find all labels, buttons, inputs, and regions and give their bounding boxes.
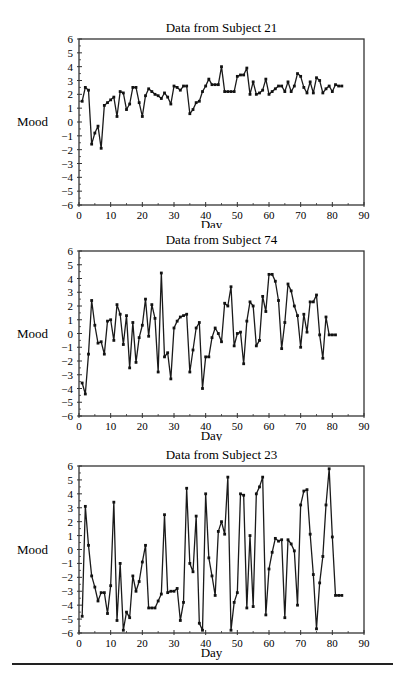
y-tick-label: 6 bbox=[68, 460, 74, 472]
data-point bbox=[201, 629, 204, 632]
data-point bbox=[192, 570, 195, 573]
chart-title: Data from Subject 23 bbox=[166, 447, 278, 462]
data-point bbox=[157, 600, 160, 603]
data-point bbox=[315, 76, 318, 79]
data-point bbox=[331, 536, 334, 539]
data-point bbox=[293, 85, 296, 88]
data-point bbox=[160, 272, 163, 275]
y-tick-label: 0 bbox=[68, 116, 74, 128]
data-point bbox=[299, 346, 302, 349]
data-point bbox=[321, 92, 324, 95]
data-point bbox=[258, 485, 261, 488]
data-point bbox=[188, 112, 191, 115]
data-point bbox=[109, 318, 112, 321]
data-point bbox=[150, 90, 153, 93]
data-line bbox=[82, 273, 335, 394]
y-tick-label: 5 bbox=[68, 47, 74, 59]
data-point bbox=[293, 305, 296, 308]
data-point bbox=[204, 492, 207, 495]
data-point bbox=[150, 607, 153, 610]
data-point bbox=[214, 327, 217, 330]
data-point bbox=[112, 96, 115, 99]
data-point bbox=[93, 324, 96, 327]
data-point bbox=[280, 85, 283, 88]
y-tick-label: 5 bbox=[68, 259, 74, 271]
data-point bbox=[144, 94, 147, 97]
data-point bbox=[223, 533, 226, 536]
data-point bbox=[277, 299, 280, 302]
data-markers bbox=[81, 467, 343, 631]
y-tick-label: 0 bbox=[68, 328, 74, 340]
data-point bbox=[258, 339, 261, 342]
data-point bbox=[255, 93, 258, 96]
data-point bbox=[302, 490, 305, 493]
data-point bbox=[233, 601, 236, 604]
data-point bbox=[318, 79, 321, 82]
data-point bbox=[325, 316, 328, 319]
data-point bbox=[185, 487, 188, 490]
data-point bbox=[340, 85, 343, 88]
data-point bbox=[185, 313, 188, 316]
data-point bbox=[147, 335, 150, 338]
data-point bbox=[157, 94, 160, 97]
data-point bbox=[84, 86, 87, 89]
data-point bbox=[135, 86, 138, 89]
data-point bbox=[150, 303, 153, 306]
data-point bbox=[236, 75, 239, 78]
data-point bbox=[87, 353, 90, 356]
data-point bbox=[182, 85, 185, 88]
data-point bbox=[242, 362, 245, 365]
data-point bbox=[81, 382, 84, 385]
data-point bbox=[293, 549, 296, 552]
data-point bbox=[337, 594, 340, 597]
data-point bbox=[166, 96, 169, 99]
data-point bbox=[144, 544, 147, 547]
data-point bbox=[109, 584, 112, 587]
data-point bbox=[328, 467, 331, 470]
y-axis-label: Mood bbox=[17, 542, 49, 557]
data-point bbox=[112, 501, 115, 504]
data-point bbox=[211, 336, 214, 339]
data-point bbox=[261, 89, 264, 92]
data-point bbox=[283, 321, 286, 324]
data-point bbox=[103, 104, 106, 107]
data-point bbox=[179, 89, 182, 92]
data-point bbox=[176, 320, 179, 323]
data-point bbox=[268, 568, 271, 571]
data-point bbox=[119, 562, 122, 565]
data-point bbox=[255, 492, 258, 495]
y-tick-label: −4 bbox=[61, 383, 73, 395]
data-point bbox=[274, 87, 277, 90]
data-point bbox=[122, 629, 125, 632]
y-tick-label: 6 bbox=[68, 245, 74, 257]
data-point bbox=[325, 87, 328, 90]
data-point bbox=[166, 351, 169, 354]
data-point bbox=[97, 342, 100, 345]
data-point bbox=[226, 90, 229, 93]
y-tick-label: −1 bbox=[61, 130, 73, 142]
data-point bbox=[87, 89, 90, 92]
data-point bbox=[131, 575, 134, 578]
data-point bbox=[135, 590, 138, 593]
data-point bbox=[306, 92, 309, 95]
data-point bbox=[283, 90, 286, 93]
data-point bbox=[119, 90, 122, 93]
y-tick-label: 2 bbox=[68, 88, 74, 100]
data-point bbox=[264, 78, 267, 81]
data-point bbox=[173, 590, 176, 593]
data-point bbox=[252, 305, 255, 308]
data-point bbox=[90, 575, 93, 578]
y-tick-label: −3 bbox=[61, 158, 73, 170]
data-point bbox=[163, 92, 166, 95]
data-point bbox=[173, 327, 176, 330]
data-point bbox=[274, 280, 277, 283]
data-point bbox=[198, 321, 201, 324]
data-point bbox=[103, 591, 106, 594]
x-tick-label: 90 bbox=[359, 637, 371, 649]
y-tick-label: 5 bbox=[68, 474, 74, 486]
data-point bbox=[309, 533, 312, 536]
data-point bbox=[223, 90, 226, 93]
y-tick-label: −3 bbox=[61, 369, 73, 381]
data-point bbox=[306, 331, 309, 334]
data-point bbox=[318, 582, 321, 585]
